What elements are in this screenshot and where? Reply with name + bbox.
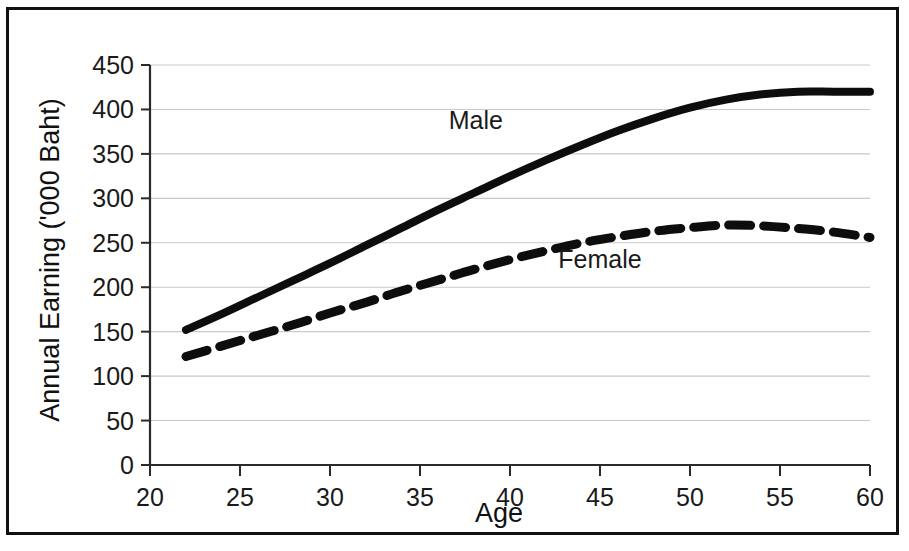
figure-border: 050100150200250300350400450 202530354045…	[6, 7, 899, 535]
x-tick-label: 45	[586, 483, 614, 511]
y-tick-label: 0	[120, 451, 134, 479]
y-tick-labels: 050100150200250300350400450	[92, 51, 134, 479]
y-tick-label: 100	[92, 362, 134, 390]
x-tick-label: 35	[406, 483, 434, 511]
x-tick-label: 50	[676, 483, 704, 511]
data-series-group	[186, 91, 870, 356]
y-tick-label: 250	[92, 229, 134, 257]
x-tick-label: 20	[136, 483, 164, 511]
x-axis-title: Age	[475, 498, 523, 528]
y-tick-label: 300	[92, 184, 134, 212]
y-tick-label: 400	[92, 95, 134, 123]
y-tick-label: 350	[92, 140, 134, 168]
series-line-male	[186, 91, 870, 329]
x-tick-label: 60	[856, 483, 884, 511]
series-line-female	[186, 225, 870, 357]
y-axis-title: Annual Earning ('000 Baht)	[35, 98, 65, 421]
chart-area: 050100150200250300350400450 202530354045…	[9, 10, 896, 532]
x-tick-label: 55	[766, 483, 794, 511]
y-tick-label: 200	[92, 273, 134, 301]
x-axis	[150, 465, 870, 476]
y-tick-label: 450	[92, 51, 134, 79]
y-tick-label: 50	[106, 407, 134, 435]
series-label-male: Male	[449, 106, 503, 134]
earnings-by-age-line-chart: 050100150200250300350400450 202530354045…	[9, 10, 896, 532]
gridlines	[150, 65, 870, 465]
x-tick-label: 30	[316, 483, 344, 511]
y-axis	[141, 65, 150, 465]
x-tick-label: 25	[226, 483, 254, 511]
y-tick-label: 150	[92, 318, 134, 346]
series-label-female: Female	[558, 245, 641, 273]
